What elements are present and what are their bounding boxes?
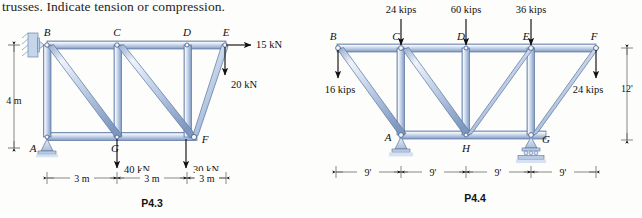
label-C2: C <box>392 30 400 42</box>
truss-figures-svg: B C D E A G F 15 kN 20 kN 40 kN 30 kN <box>0 0 642 218</box>
p44-caption: P4.4 <box>464 192 486 204</box>
label-D: D <box>182 26 191 38</box>
joint-B <box>45 43 49 47</box>
member-D-H <box>462 48 470 135</box>
p43-support-B <box>22 33 44 57</box>
p44-members <box>337 44 599 139</box>
p44-span-4: 9' <box>560 167 567 178</box>
joint-D <box>185 43 189 47</box>
joint-F <box>191 134 196 139</box>
label-B2: B <box>330 30 337 42</box>
label-H2: H <box>461 142 471 154</box>
member-F-E <box>192 45 228 139</box>
joint-G <box>115 135 119 139</box>
label-A: A <box>29 142 37 154</box>
load-label-24kips-C: 24 kips <box>386 4 417 15</box>
label-A2: A <box>384 131 392 143</box>
member-H-E <box>466 48 534 137</box>
p44-span-2: 9' <box>430 167 437 178</box>
member-A-F <box>47 133 197 141</box>
label-F2: F <box>590 30 598 42</box>
member-B-G <box>48 45 123 139</box>
member-C-G <box>114 45 122 137</box>
label-C: C <box>113 26 121 38</box>
joint-C <box>115 43 119 47</box>
label-E: E <box>222 26 230 38</box>
p43-support-A <box>36 139 58 157</box>
member-B-A <box>44 45 52 137</box>
load-label-20kN: 20 kN <box>231 79 257 90</box>
load-label-36kips-E: 36 kips <box>516 4 547 15</box>
member-C-A <box>397 48 405 135</box>
joint-F2 <box>594 46 599 51</box>
figure-p43: B C D E A G F 15 kN 20 kN 40 kN 30 kN <box>6 26 282 209</box>
label-G2: G <box>542 133 550 145</box>
load-label-24kips-F: 24 kips <box>573 84 604 95</box>
p44-span-1: 9' <box>365 167 372 178</box>
p44-dim-12ft: 12' <box>621 83 633 94</box>
p43-dim-4m: 4 m <box>6 95 22 106</box>
p43-dim-h-labels: 3 m 3 m 3 m <box>70 171 219 184</box>
joint-C2 <box>399 46 404 51</box>
member-C-H <box>403 48 472 137</box>
joint-H2 <box>464 133 468 137</box>
member-E-G <box>527 48 535 135</box>
joint-E2 <box>529 46 534 51</box>
p44-dim-vertical <box>621 48 633 140</box>
p44-support-A <box>389 137 413 156</box>
load-label-15kN: 15 kN <box>256 39 282 50</box>
p43-span-2: 3 m <box>144 173 160 184</box>
p44-dim-h-labels: 9' 9' 9' 9' <box>357 165 574 178</box>
p43-span-1: 3 m <box>74 173 90 184</box>
p43-members <box>44 41 229 141</box>
member-B-E <box>47 41 226 49</box>
p43-span-3: 3 m <box>199 173 215 184</box>
label-E2: E <box>522 30 530 42</box>
label-G: G <box>111 142 119 154</box>
p43-diagonals <box>48 45 229 139</box>
label-B: B <box>44 26 51 38</box>
joint-B2 <box>336 46 341 51</box>
p43-caption: P4.3 <box>141 197 163 209</box>
load-label-60kips-D: 60 kips <box>451 4 482 15</box>
figure-page: trusses. Indicate tension or compression… <box>0 0 642 218</box>
p44-span-3: 9' <box>495 167 502 178</box>
label-F: F <box>201 133 209 145</box>
load-label-16kips-B: 16 kips <box>325 84 356 95</box>
figure-p44: B C D E F A H G 24 kips 60 kips 36 kips <box>325 4 633 204</box>
joint-D2 <box>464 46 468 50</box>
label-D2: D <box>456 30 465 42</box>
